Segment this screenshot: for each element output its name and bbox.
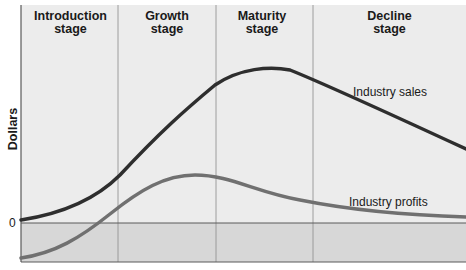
y-axis-label: Dollars: [6, 104, 20, 154]
stage-label-growth: Growth stage: [118, 10, 216, 36]
stage-label-maturity: Maturity stage: [216, 10, 308, 36]
industry-profits-label: Industry profits: [349, 195, 428, 209]
industry-sales-label: Industry sales: [353, 85, 427, 99]
stage-label-line: stage: [216, 23, 308, 36]
stage-label-line: stage: [23, 23, 118, 36]
plot-background: [21, 5, 466, 223]
stage-label-line: stage: [118, 23, 216, 36]
product-life-cycle-chart: [0, 0, 466, 270]
stage-label-introduction: Introduction stage: [23, 10, 118, 36]
zero-tick-label: 0: [9, 216, 16, 230]
stage-label-line: stage: [313, 23, 466, 36]
stage-label-decline: Decline stage: [313, 10, 466, 36]
